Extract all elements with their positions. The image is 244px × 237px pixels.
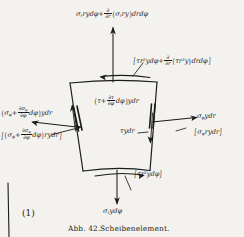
- right-face-tick-a: [150, 104, 152, 128]
- bottom-shear-leader: [125, 176, 131, 190]
- figure-caption-text: Scheibenelement.: [100, 224, 170, 233]
- right-hoop-stress-label: σφydr: [197, 113, 216, 121]
- top-shear-arrow-shaft: [101, 75, 150, 77]
- right-hoop-moment-label: [σφrydr]: [194, 128, 222, 136]
- bottom-shear-moment-label: [τr2ydφ]: [134, 170, 163, 178]
- column-rule: [8, 183, 9, 237]
- left-hoop-arrow-shaft: [33, 122, 77, 127]
- top-shear-arrowhead: [99, 75, 107, 81]
- figure-caption-number: Abb. 42.: [68, 224, 100, 233]
- top-radial-stress-label: σrrydφ+∂∂r(σrry)drdφ: [76, 8, 148, 19]
- equation-number: (1): [22, 208, 35, 218]
- right-face-tick-b: [153, 104, 155, 128]
- right-bracket-leader: [176, 128, 186, 131]
- left-hoop-moment-label: [(σφ+∂σφ∂φdφ)rydr]: [1, 128, 62, 141]
- inner-shear-stress-label: (τ+∂τ∂φdφ)ydr: [94, 95, 139, 106]
- left-hoop-stress-label: (σφ+∂σφ∂φdφ)ydr: [1, 106, 52, 119]
- center-shear-stress-label: τydr: [120, 128, 135, 135]
- center-shear-leader: [138, 132, 148, 133]
- top-shear-stress-label: [τr2ydφ+∂∂r(τr2y)drdφ]: [133, 55, 211, 66]
- right-hoop-arrow-shaft: [152, 118, 196, 123]
- left-hoop-arrowhead: [31, 121, 39, 126]
- bottom-radial-stress-label: σrydφ: [103, 208, 122, 216]
